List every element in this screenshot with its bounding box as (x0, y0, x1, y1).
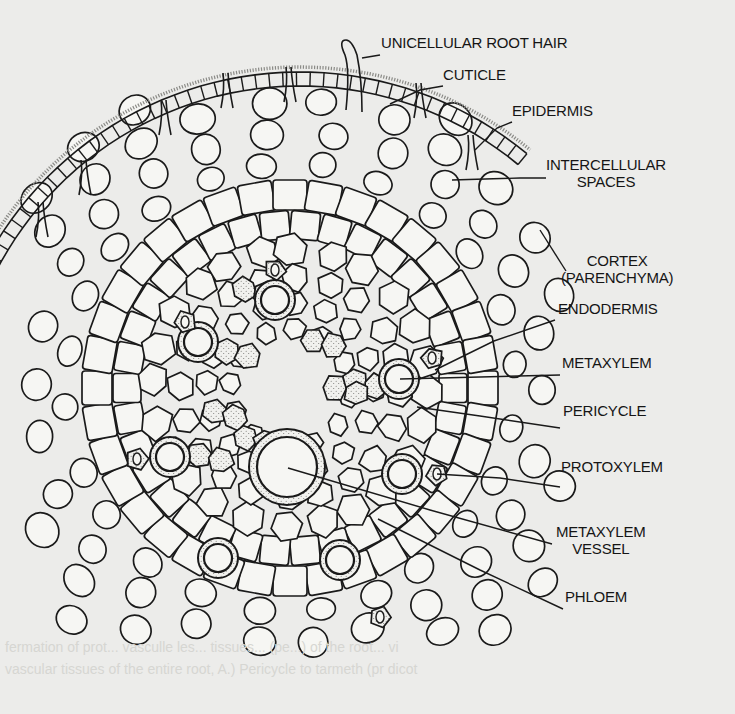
endodermis-cell (82, 371, 112, 405)
cortex-cell (522, 314, 557, 352)
cortex-cell (501, 350, 527, 379)
stele-parenchyma-cell (318, 273, 343, 298)
stele-parenchyma-cell (196, 371, 217, 395)
epidermal-cell-wall (12, 220, 23, 228)
epidermal-cell-wall (283, 72, 284, 86)
epidermal-cell-wall (402, 88, 406, 101)
cortex-cell (51, 600, 92, 640)
epidermal-cell-wall (214, 83, 217, 97)
root-hair (466, 135, 478, 170)
cortex-cell (305, 88, 338, 117)
metaxylem-vessel-label: METAXYLEM VESSEL (556, 523, 646, 557)
stele-parenchyma-cell (340, 319, 361, 341)
cortex-cell (52, 243, 89, 281)
cortex-cell (473, 608, 517, 651)
stele-parenchyma-cell (233, 501, 264, 536)
stele-parenchyma-cell (346, 254, 379, 285)
cortex-cell (472, 165, 519, 211)
metaxylem-label: METAXYLEM (562, 354, 652, 371)
root-hair (159, 100, 171, 135)
metaxylem-vessel (156, 443, 184, 471)
epidermal-cell-wall (4, 231, 16, 239)
stele-parenchyma-cell (219, 373, 240, 394)
cortex-cell (50, 391, 81, 423)
stele-parenchyma-cell (337, 494, 370, 525)
cortex-cell (514, 216, 557, 259)
epidermal-cell-wall (187, 90, 192, 103)
epidermal-cell-wall (427, 97, 432, 110)
cortex-cell (306, 597, 336, 621)
epidermal-cell-wall (337, 74, 339, 88)
cortex-cell (249, 119, 284, 151)
endodermis-cell (273, 180, 307, 210)
cortex-cell (19, 367, 54, 403)
stele-parenchyma-cell (226, 313, 249, 333)
metaxylem-vessel (184, 328, 212, 356)
cortex-cell (493, 250, 534, 293)
cortex-cell (113, 89, 156, 131)
protoxylem-element (271, 264, 279, 276)
cortex-cell (496, 412, 526, 445)
cortex-cell (252, 88, 287, 120)
stele-parenchyma-cell (314, 300, 337, 323)
stele-parenchyma-cell (173, 409, 200, 432)
root-cross-section-diagram: UNICELLULAR ROOT HAIRCUTICLEEPIDERMISINT… (0, 0, 735, 714)
cuticle-label: CUTICLE (443, 66, 506, 83)
cortex-cell (316, 120, 351, 153)
phloem-cell (301, 330, 325, 351)
protoxylem-element (181, 316, 189, 328)
phloem-cell (323, 376, 346, 400)
stele-parenchyma-cell (328, 413, 347, 436)
epidermal-cell-wall (112, 126, 119, 138)
epidermal-cell-wall (376, 81, 379, 95)
cortex-cell (29, 209, 72, 253)
unicellular-root-hair-label: UNICELLULAR ROOT HAIR (381, 34, 567, 51)
epidermal-cell-wall (174, 95, 179, 108)
stele-parenchyma-cell (319, 242, 346, 271)
cortex-cell (189, 132, 223, 167)
cortex-cell (63, 127, 105, 167)
cortex-cell (84, 194, 125, 235)
phloem-label: PHLOEM (565, 588, 627, 605)
epidermal-cell-wall (201, 86, 205, 100)
phloem-cell (202, 400, 226, 423)
bleed-through-line: fermation of prot... vasculle les... tis… (5, 639, 399, 655)
epidermal-cell-wall (350, 76, 352, 90)
cortex-cell (455, 540, 498, 583)
epidermal-cell-wall (497, 137, 505, 148)
endodermis-cell (82, 402, 117, 441)
metaxylem-vessel (326, 546, 354, 574)
epidermal-cell-wall (508, 145, 516, 156)
epidermal-cell-wall (323, 73, 324, 87)
epidermal-cell-wall (269, 73, 270, 87)
protoxylem-label: PROTOXYLEM (561, 458, 663, 475)
epidermal-cell-wall (389, 84, 393, 98)
epidermal-cell-wall (475, 122, 482, 134)
cortex-cell (376, 135, 411, 171)
metaxylem-vessel (388, 460, 416, 488)
stele-parenchyma-cell (344, 288, 370, 313)
cortex-cell (53, 333, 86, 370)
stele-parenchyma-cell (355, 410, 378, 433)
cortex-cell (74, 530, 111, 568)
cortex-cell (74, 158, 116, 201)
protoxylem-element (376, 611, 384, 623)
stele-parenchyma-cell (338, 468, 363, 492)
epidermis-label: EPIDERMIS (512, 102, 593, 119)
unicellular-root-hair-leader-line (362, 55, 380, 58)
epidermal-cell-wall (363, 78, 366, 92)
stele-parenchyma-cell (357, 348, 378, 371)
cortex-cell (376, 102, 412, 137)
cortex-cell (244, 597, 275, 624)
stele-parenchyma-cell (333, 442, 355, 464)
pericycle-cell (113, 374, 141, 403)
stele-parenchyma-cell (380, 281, 409, 314)
cortex-cell (522, 562, 563, 603)
cortex-cell (528, 375, 555, 404)
cortex-cell (178, 102, 217, 136)
metaxylem-vessel (261, 286, 289, 314)
metaxylem-vessel (204, 544, 232, 572)
cortex-cell (58, 558, 101, 602)
cortex-cell (309, 152, 336, 178)
endodermis-cell (237, 180, 276, 215)
